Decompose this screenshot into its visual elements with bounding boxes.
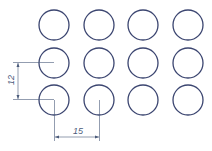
hole-r1-c4: [173, 10, 203, 40]
hole-r2-c4: [173, 48, 203, 78]
arrow-up-icon: [17, 63, 20, 67]
vertical-dimension-label: 12: [6, 75, 16, 85]
hole-r2-c3: [128, 48, 158, 78]
hole-r1-c3: [128, 10, 158, 40]
hole-r1-c1: [39, 10, 69, 40]
circle-grid: [39, 10, 203, 115]
hole-r2-c1: [39, 48, 69, 78]
hole-r1-c2: [84, 10, 114, 40]
arrow-right-icon: [95, 136, 99, 139]
horizontal-dimension-label: 15: [73, 126, 84, 136]
hole-r2-c2: [84, 48, 114, 78]
vertical-dimension: [13, 63, 54, 100]
hole-r3-c4: [173, 85, 203, 115]
hole-pattern-drawing: 12 15: [0, 0, 212, 151]
arrow-left-icon: [55, 136, 59, 139]
hole-r3-c3: [128, 85, 158, 115]
hole-r3-c1: [39, 85, 69, 115]
hole-r3-c2: [84, 85, 114, 115]
arrow-down-icon: [17, 95, 20, 99]
